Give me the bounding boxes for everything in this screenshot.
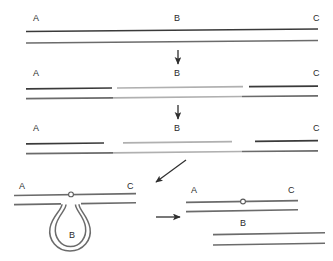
recombination-site-marker (69, 192, 74, 197)
strand-top-a (26, 88, 112, 89)
strand-top-c (249, 86, 318, 87)
strand-top-b (123, 142, 232, 143)
label-c: C (313, 68, 320, 78)
strand-top-c (255, 141, 318, 142)
strand-bottom-b (113, 97, 242, 98)
strand-bottom-c (81, 203, 136, 204)
strand-top-ac (14, 194, 136, 196)
strand-bottom-c (242, 96, 318, 97)
strand-ac-bottom (186, 210, 298, 212)
strand-bottom-b (113, 152, 242, 153)
strand-b-top (213, 233, 325, 235)
strand-b-bottom (213, 243, 325, 245)
panel-looped-intermediate: A C B (14, 181, 136, 251)
strand-bottom-abc (26, 41, 318, 44)
strand-top-b (117, 87, 243, 88)
panel-intact-duplex: A B C (26, 13, 320, 43)
label-c: C (313, 123, 320, 133)
label-a: A (19, 181, 25, 191)
label-b: B (174, 68, 180, 78)
panel-excision-products: A C B (186, 185, 325, 245)
label-b: B (174, 13, 180, 23)
strand-top-a (26, 143, 104, 144)
recombination-site-marker (241, 199, 246, 204)
label-b: B (174, 123, 180, 133)
label-b-loop: B (69, 230, 75, 240)
label-a: A (33, 123, 39, 133)
excision-diagram: A B C A B C A B C (0, 0, 333, 261)
label-a: A (191, 185, 197, 195)
label-c: C (313, 13, 320, 23)
label-a: A (33, 13, 39, 23)
diagram-canvas: A B C A B C A B C (0, 0, 333, 261)
strand-bottom-a (14, 204, 61, 205)
panel-nicked-duplex: A B C (26, 68, 320, 99)
strand-bottom-a (26, 98, 113, 99)
strand-top-abc (26, 29, 318, 32)
arrow-step-3-to-4 (156, 160, 186, 182)
label-c: C (288, 185, 295, 195)
strand-bottom-a (26, 153, 113, 154)
strand-bottom-c (242, 151, 318, 152)
label-b-product: B (240, 218, 246, 228)
panel-separated-duplex: A B C (26, 123, 320, 154)
label-a: A (33, 68, 39, 78)
label-c: C (127, 181, 134, 191)
